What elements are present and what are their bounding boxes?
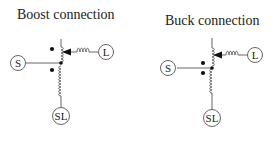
svg-text:SL: SL [206,112,219,124]
boost-terminal-l: L [99,45,114,60]
svg-text:S: S [165,62,171,74]
svg-text:L: L [252,49,259,61]
buck-terminal-s: S [161,61,176,76]
boost-terminal-sl: SL [53,108,70,125]
buck-junction-dot [210,66,214,70]
svg-text:S: S [15,57,21,69]
buck-terminal-sl: SL [204,110,221,127]
svg-text:L: L [103,46,110,58]
buck-polarity-dot-lower [201,71,205,75]
boost-polarity-dot-upper [50,47,54,51]
buck-diagram [177,38,250,110]
boost-polarity-dot-lower [50,68,54,72]
boost-junction-dot [59,61,63,65]
svg-text:SL: SL [55,110,68,122]
buck-terminal-l: L [248,48,263,63]
boost-terminal-s: S [11,56,26,71]
boost-diagram [26,39,98,108]
buck-polarity-dot-upper [201,61,205,65]
autotransformer-diagrams: S L SL S L SL [0,0,273,144]
